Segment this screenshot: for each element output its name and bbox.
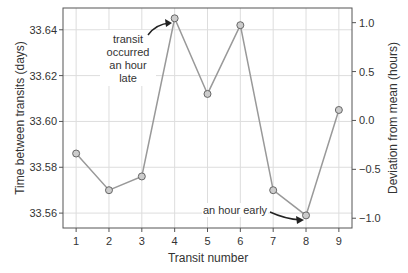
y-axis-left: 33.5633.5833.6033.6233.64 [29, 24, 63, 219]
svg-text:an hour: an hour [109, 59, 147, 71]
y-tick-label: 33.62 [29, 70, 57, 82]
data-point [303, 212, 310, 219]
data-point [171, 15, 178, 22]
x-tick-label: 2 [106, 235, 112, 247]
svg-text:occurred: occurred [107, 46, 150, 58]
data-point [270, 187, 277, 194]
data-point [237, 22, 244, 29]
x-tick-label: 8 [303, 235, 309, 247]
data-point [73, 150, 80, 157]
y-right-tick-label: 0.0 [359, 114, 374, 126]
y-right-tick-label: −0.5 [359, 163, 381, 175]
x-tick-label: 3 [139, 235, 145, 247]
data-point [105, 187, 112, 194]
chart: 33.5633.5833.6033.6233.64 −1.0−0.50.00.5… [0, 0, 408, 273]
x-tick-label: 5 [204, 235, 210, 247]
x-tick-label: 9 [336, 235, 342, 247]
y-right-tick-label: 1.0 [359, 17, 374, 29]
svg-text:transit: transit [113, 33, 143, 45]
x-tick-label: 4 [172, 235, 178, 247]
y-right-tick-label: −1.0 [359, 212, 381, 224]
y-right-tick-label: 0.5 [359, 66, 374, 78]
y-axis-left-label: Time between transits (days) [13, 41, 27, 195]
x-axis: 123456789 [73, 228, 342, 247]
x-tick-label: 6 [237, 235, 243, 247]
data-point [138, 173, 145, 180]
x-tick-label: 1 [73, 235, 79, 247]
y-tick-label: 33.56 [29, 207, 57, 219]
x-axis-label: Transit number [168, 251, 248, 265]
y-axis-right-label: Deviation from mean (hours) [386, 42, 400, 194]
svg-text:late: late [119, 72, 137, 84]
y-axis-right: −1.0−0.50.00.51.0 [352, 17, 381, 225]
y-tick-label: 33.64 [29, 24, 57, 36]
y-tick-label: 33.60 [29, 115, 57, 127]
y-tick-label: 33.58 [29, 161, 57, 173]
data-point [204, 90, 211, 97]
x-tick-label: 7 [270, 235, 276, 247]
svg-text:an hour early: an hour early [203, 204, 268, 216]
data-point [335, 106, 342, 113]
